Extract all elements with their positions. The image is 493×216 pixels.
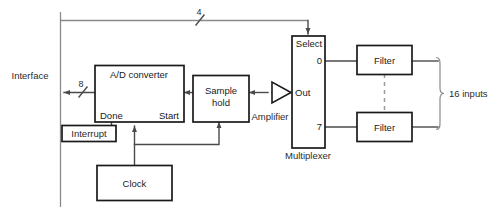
inputs-count-label: 16 inputs bbox=[449, 88, 488, 99]
ad-converter-label: A/D converter bbox=[110, 69, 168, 80]
sample-hold-label-line1: Sample bbox=[205, 85, 237, 96]
inputs-brace bbox=[436, 58, 444, 130]
filter-bottom-label: Filter bbox=[374, 122, 395, 133]
sample-hold-label-line2: hold bbox=[212, 97, 230, 108]
block-diagram-canvas: Interface 8 4 A/D converter Done Start S… bbox=[0, 0, 493, 216]
clock-label: Clock bbox=[123, 178, 147, 189]
mux-channel-7-label: 7 bbox=[317, 121, 322, 132]
adc-port-start-label: Start bbox=[159, 110, 179, 121]
multiplexer-label: Multiplexer bbox=[285, 150, 331, 161]
interrupt-label: Interrupt bbox=[71, 128, 107, 139]
mux-channel-0-label: 0 bbox=[317, 55, 322, 66]
wire-clock-to-samplehold bbox=[135, 122, 220, 145]
amplifier-label: Amplifier bbox=[252, 111, 289, 122]
bus-width-8-label: 8 bbox=[78, 79, 83, 89]
amplifier-symbol[interactable] bbox=[272, 82, 291, 103]
bus-width-4-label: 4 bbox=[196, 7, 201, 17]
adc-port-done-label: Done bbox=[100, 110, 123, 121]
mux-port-select-label: Select bbox=[296, 38, 323, 49]
mux-port-out-label: Out bbox=[295, 87, 311, 98]
filter-top-label: Filter bbox=[374, 55, 395, 66]
diagram-svg: Interface 8 4 A/D converter Done Start S… bbox=[0, 0, 493, 216]
interface-label: Interface bbox=[12, 70, 49, 81]
